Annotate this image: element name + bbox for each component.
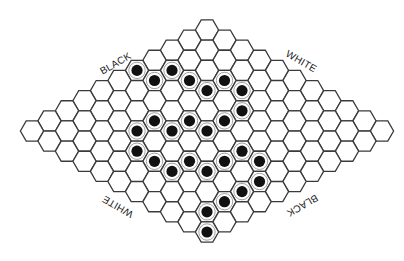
stone-black bbox=[201, 166, 212, 177]
stone-black bbox=[219, 156, 230, 167]
stone-black bbox=[131, 125, 142, 136]
stone-black bbox=[236, 85, 247, 96]
stone-black bbox=[131, 146, 142, 157]
stone-black bbox=[131, 65, 142, 76]
stone-black bbox=[201, 85, 212, 96]
stone-black bbox=[236, 105, 247, 116]
stone-black bbox=[219, 75, 230, 86]
stone-black bbox=[201, 226, 212, 237]
stone-black bbox=[184, 115, 195, 126]
stone-black bbox=[149, 115, 160, 126]
stone-black bbox=[236, 146, 247, 157]
edge-label-bottom-right: BLACK bbox=[285, 192, 320, 219]
hex-board: BLACK WHITE WHITE BLACK bbox=[0, 0, 404, 261]
stone-black bbox=[201, 125, 212, 136]
hex-board-figure: BLACK WHITE WHITE BLACK bbox=[0, 0, 404, 261]
stone-black bbox=[254, 156, 265, 167]
stone-black bbox=[219, 115, 230, 126]
stone-black bbox=[219, 196, 230, 207]
stone-black bbox=[236, 186, 247, 197]
stone-black bbox=[166, 166, 177, 177]
stone-black bbox=[166, 125, 177, 136]
stone-black bbox=[149, 75, 160, 86]
stone-black bbox=[184, 156, 195, 167]
stone-black bbox=[149, 156, 160, 167]
stone-black bbox=[166, 65, 177, 76]
stone-black bbox=[254, 176, 265, 187]
stone-black bbox=[201, 206, 212, 217]
stone-black bbox=[184, 75, 195, 86]
